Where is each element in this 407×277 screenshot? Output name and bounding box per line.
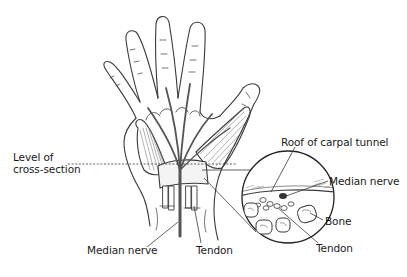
cross-section-inset xyxy=(240,151,336,243)
label-level-line1: Level of xyxy=(13,151,81,163)
index-finger xyxy=(178,22,205,112)
ring-finger xyxy=(126,31,158,102)
label-level-line2: cross-section xyxy=(13,163,81,175)
label-median-nerve-hand: Median nerve xyxy=(87,244,157,256)
middle-finger xyxy=(156,17,178,98)
label-median-nerve-inset: Median nerve xyxy=(329,175,399,187)
label-tendon-inset: Tendon xyxy=(316,242,353,254)
wrist-radial-edge xyxy=(214,168,222,240)
inset-median-nerve xyxy=(279,193,287,199)
hand-illustration xyxy=(104,17,260,240)
label-level-of-cross-section: Level of cross-section xyxy=(13,151,81,175)
thenar-muscle xyxy=(196,107,250,169)
leader-tendon-hand xyxy=(194,206,201,243)
label-roof-of-carpal-tunnel: Roof of carpal tunnel xyxy=(281,136,388,148)
label-bone: Bone xyxy=(325,215,351,227)
finger-creases xyxy=(110,40,250,106)
label-tendon-hand: Tendon xyxy=(196,244,233,256)
carpal-tunnel-diagram: Level of cross-section Roof of carpal tu… xyxy=(0,0,407,277)
little-finger xyxy=(104,61,140,118)
